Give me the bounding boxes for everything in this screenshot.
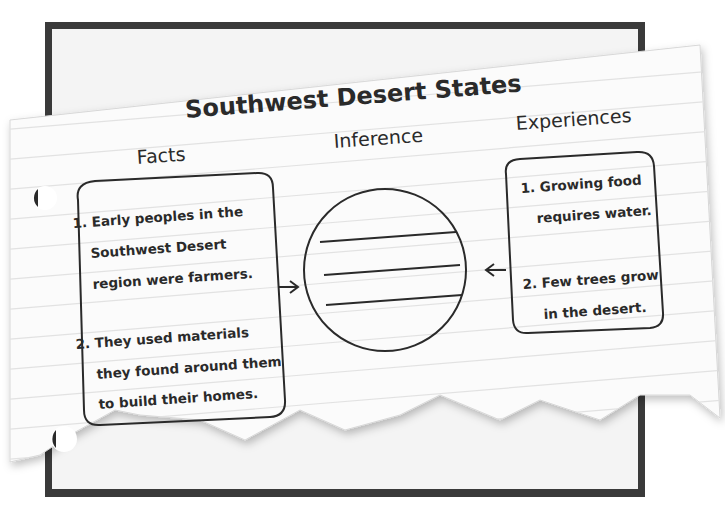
diagram-canvas: Southwest Desert States Facts Inference …: [0, 0, 725, 518]
facts-heading: Facts: [136, 143, 186, 168]
